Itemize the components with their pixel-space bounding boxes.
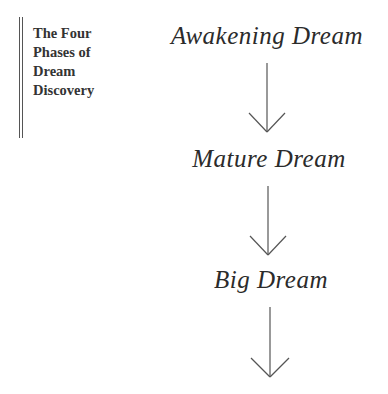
down-arrow-icon bbox=[248, 304, 292, 382]
down-arrow-icon bbox=[245, 60, 289, 136]
phase-mature-dream: Mature Dream bbox=[192, 145, 345, 173]
sidebar-title-line-2: Phases of bbox=[33, 43, 133, 62]
sidebar-double-rule bbox=[19, 17, 23, 138]
phase-big-dream: Big Dream bbox=[214, 266, 328, 294]
sidebar-title-line-1: The Four bbox=[33, 24, 133, 43]
phase-awakening-dream: Awakening Dream bbox=[171, 22, 363, 50]
sidebar-title: The Four Phases of Dream Discovery bbox=[33, 24, 133, 100]
down-arrow-icon bbox=[246, 183, 290, 259]
sidebar-title-line-4: Discovery bbox=[33, 81, 133, 100]
sidebar-title-line-3: Dream bbox=[33, 62, 133, 81]
